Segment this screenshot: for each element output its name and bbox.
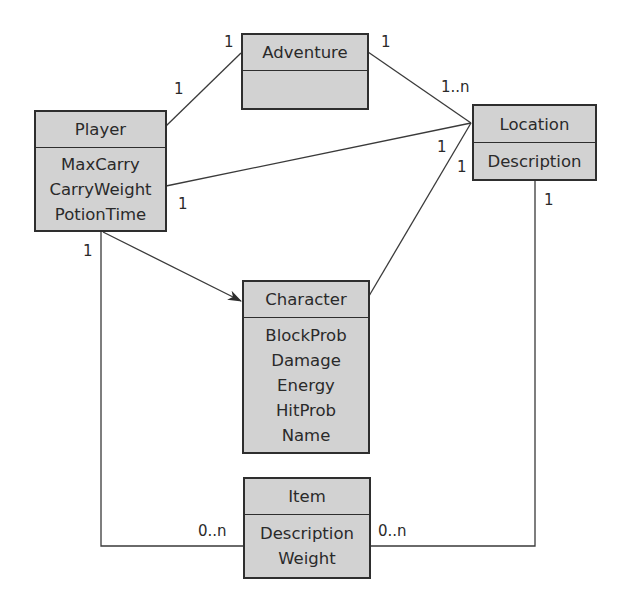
attribute: PotionTime	[55, 202, 146, 227]
attribute: Weight	[278, 546, 335, 571]
class-character-attributes: BlockProb Damage Energy HitProb Name	[244, 318, 368, 452]
class-location-name: Location	[474, 106, 595, 143]
multiplicity-label: 1	[178, 197, 188, 212]
multiplicity-label: 0..n	[198, 524, 227, 539]
multiplicity-label: 1	[381, 35, 391, 50]
attribute: Description	[488, 149, 582, 174]
attribute: Description	[260, 521, 354, 546]
class-item: Item Description Weight	[243, 477, 371, 579]
class-adventure-attributes	[243, 71, 367, 108]
class-player-attributes: MaxCarry CarryWeight PotionTime	[36, 148, 165, 230]
attribute: BlockProb	[265, 323, 346, 348]
multiplicity-label: 1	[174, 82, 184, 97]
player-character-arrow	[103, 232, 241, 301]
class-item-attributes: Description Weight	[245, 515, 369, 577]
player-item-link	[101, 232, 243, 546]
multiplicity-label: 1..n	[441, 80, 470, 95]
multiplicity-label: 1	[437, 140, 447, 155]
location-item-link	[370, 180, 535, 546]
class-item-name: Item	[245, 479, 369, 515]
multiplicity-label: 1	[224, 35, 234, 50]
class-adventure-name: Adventure	[243, 35, 367, 71]
multiplicity-label: 0..n	[378, 524, 407, 539]
attribute: Name	[282, 423, 331, 448]
player-location-link	[166, 123, 471, 186]
multiplicity-label: 1	[83, 244, 93, 259]
multiplicity-label: 1	[457, 160, 467, 175]
class-adventure: Adventure	[241, 33, 369, 110]
attribute: Damage	[271, 348, 341, 373]
class-player: Player MaxCarry CarryWeight PotionTime	[34, 110, 167, 232]
class-character-name: Character	[244, 282, 368, 318]
class-player-name: Player	[36, 112, 165, 148]
attribute: HitProb	[276, 398, 336, 423]
class-location-attributes: Description	[474, 143, 595, 179]
multiplicity-label: 1	[544, 193, 554, 208]
character-location-link	[369, 123, 471, 296]
attribute: CarryWeight	[49, 177, 151, 202]
class-character: Character BlockProb Damage Energy HitPro…	[242, 280, 370, 454]
class-location: Location Description	[472, 104, 597, 181]
attribute: Energy	[277, 373, 335, 398]
attribute: MaxCarry	[61, 152, 140, 177]
